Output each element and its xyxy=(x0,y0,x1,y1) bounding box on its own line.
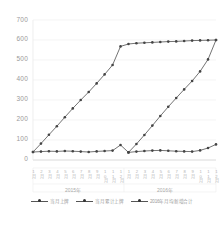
data-point xyxy=(48,150,51,153)
data-point xyxy=(199,149,202,152)
x-tick-label: 2月 xyxy=(134,169,138,177)
series-line xyxy=(33,144,216,152)
data-point xyxy=(127,151,130,154)
x-tick-label: 1月 xyxy=(126,169,130,177)
data-point xyxy=(127,43,130,46)
x-tick-label: 3月 xyxy=(142,169,146,177)
data-point xyxy=(159,41,162,44)
data-point xyxy=(103,73,106,76)
series-line xyxy=(128,40,216,152)
x-tick-label: 7月 xyxy=(174,169,178,177)
legend-marker-icon xyxy=(31,201,48,202)
data-point xyxy=(175,40,178,43)
x-tick-label: 8月 xyxy=(86,169,90,177)
data-point xyxy=(135,150,138,153)
data-point xyxy=(95,150,98,153)
legend-marker-icon xyxy=(131,201,148,202)
data-point xyxy=(143,134,146,137)
x-tick-label: 5月 xyxy=(158,169,162,177)
x-tick-label: 11月 xyxy=(110,169,114,182)
series-layer xyxy=(32,39,218,154)
data-point xyxy=(56,150,59,153)
data-point xyxy=(40,142,43,145)
data-point xyxy=(32,151,35,154)
data-point xyxy=(167,106,170,109)
data-point xyxy=(151,41,154,44)
axis-lines xyxy=(33,20,216,192)
x-tick-label: 10月 xyxy=(198,169,202,182)
x-tick-label: 8月 xyxy=(182,169,186,177)
data-point xyxy=(183,40,186,43)
data-point xyxy=(119,45,122,48)
data-point xyxy=(191,80,194,83)
data-point xyxy=(167,150,170,153)
data-point xyxy=(135,42,138,45)
data-point xyxy=(183,88,186,91)
legend-label: 当月累计上牌 xyxy=(95,198,124,204)
x-tick-label: 5月 xyxy=(63,169,67,177)
data-point xyxy=(119,144,122,147)
data-point xyxy=(95,82,98,85)
legend-item-cumulative[interactable]: 当月累计上牌 xyxy=(76,198,124,204)
data-point xyxy=(215,39,218,42)
data-point xyxy=(71,107,74,110)
x-tick-label: 7月 xyxy=(79,169,83,177)
data-point xyxy=(87,91,90,94)
data-point xyxy=(143,150,146,153)
x-tick-label: 2月 xyxy=(39,169,43,177)
data-point xyxy=(64,150,67,153)
chart-legend: 当月上牌 当月累计上牌 2016年月均新增合计 xyxy=(0,198,224,204)
data-point xyxy=(151,149,154,152)
x-tick-label: 9月 xyxy=(94,169,98,177)
data-point xyxy=(56,125,59,128)
data-point xyxy=(135,143,138,146)
data-point xyxy=(175,97,178,100)
data-point xyxy=(159,149,162,152)
group-label-2015: 2015年 xyxy=(48,186,98,193)
data-point xyxy=(40,150,43,153)
data-point xyxy=(71,150,74,153)
group-label-2016: 2016年 xyxy=(140,186,190,193)
x-tick-label: 10月 xyxy=(102,169,106,182)
data-point xyxy=(191,39,194,42)
plot-area xyxy=(0,0,224,227)
data-point xyxy=(159,115,162,118)
series-line xyxy=(33,40,216,152)
data-point xyxy=(215,143,218,146)
data-point xyxy=(183,150,186,153)
x-tick-label: 12月 xyxy=(118,169,122,182)
data-point xyxy=(143,42,146,45)
x-tick-label: 1月 xyxy=(31,169,35,177)
data-point xyxy=(48,134,51,137)
data-point xyxy=(199,70,202,73)
data-point xyxy=(207,147,210,150)
legend-label: 当月上牌 xyxy=(50,198,69,204)
x-tick-label: 6月 xyxy=(166,169,170,177)
data-point xyxy=(207,58,210,61)
x-tick-label: 11月 xyxy=(206,169,210,182)
data-point xyxy=(103,150,106,153)
data-point xyxy=(151,124,154,127)
data-point xyxy=(191,150,194,153)
x-tick-label: 3月 xyxy=(47,169,51,177)
data-point xyxy=(167,40,170,43)
x-tick-label: 4月 xyxy=(55,169,59,177)
x-tick-label: 6月 xyxy=(71,169,75,177)
data-point xyxy=(199,39,202,42)
x-tick-label: 4月 xyxy=(150,169,154,177)
data-point xyxy=(111,149,114,152)
x-tick-label: 12月 xyxy=(214,169,218,182)
data-point xyxy=(79,99,82,102)
legend-item-2016-average[interactable]: 2016年月均新增合计 xyxy=(131,198,193,204)
data-point xyxy=(64,116,67,119)
data-point xyxy=(87,151,90,154)
data-point xyxy=(207,39,210,42)
chart-container: 700 600 500 400 300 200 100 0 1月2月3月4月5月 xyxy=(0,0,224,227)
data-point xyxy=(111,64,114,67)
data-point xyxy=(79,150,82,153)
data-point xyxy=(175,150,178,153)
x-tick-label: 9月 xyxy=(190,169,194,177)
legend-label: 2016年月均新增合计 xyxy=(150,198,193,204)
legend-marker-icon xyxy=(76,201,93,202)
legend-item-monthly[interactable]: 当月上牌 xyxy=(31,198,69,204)
